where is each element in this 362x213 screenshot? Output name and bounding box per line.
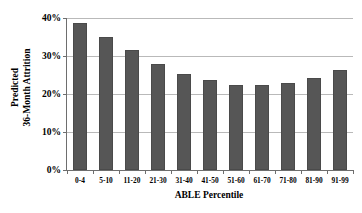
bar-51-60 [229, 85, 243, 171]
bar-41-50 [203, 80, 217, 170]
bar-11-20 [125, 50, 139, 170]
x-axis-tick [301, 170, 302, 174]
y-axis-title-line-2: 36-Month Attrition [22, 49, 34, 127]
y-axis-tick-label: 0% [47, 165, 61, 175]
bar-5-10 [99, 37, 113, 170]
x-axis-tick [93, 170, 94, 174]
bar-91-99 [333, 70, 347, 170]
x-axis-tick-label-0-4: 0-4 [75, 176, 85, 185]
x-axis-tick-label-91-99: 91-99 [331, 176, 348, 185]
x-axis-tick-label-61-70: 61-70 [253, 176, 270, 185]
x-axis-tick [197, 170, 198, 174]
y-axis-tick-label: 40% [42, 13, 61, 23]
x-axis-tick [223, 170, 224, 174]
bar-0-4 [73, 23, 87, 170]
x-axis-tick [249, 170, 250, 174]
y-axis-tick-label: 10% [42, 127, 61, 137]
x-axis-tick-label-41-50: 41-50 [201, 176, 218, 185]
x-axis-tick-label-11-20: 11-20 [124, 176, 141, 185]
x-axis-tick-label-81-90: 81-90 [305, 176, 322, 185]
x-axis-tick [119, 170, 120, 174]
x-axis-tick-label-51-60: 51-60 [227, 176, 244, 185]
bar-chart-figure: Predicted 36-Month Attrition 0%10%20%30%… [0, 0, 362, 213]
x-axis-tick-label-21-30: 21-30 [149, 176, 166, 185]
y-axis-tick-label: 30% [42, 51, 61, 61]
plot-area: 0%10%20%30%40% 0-45-1011-2021-3031-4041-… [66, 18, 353, 171]
y-axis-tick-label: 20% [42, 89, 61, 99]
x-axis-tick [275, 170, 276, 174]
y-axis-title: Predicted 36-Month Attrition [4, 0, 40, 175]
x-axis-tick [353, 170, 354, 174]
bar-71-80 [281, 83, 295, 170]
x-axis-tick [67, 170, 68, 174]
bar-81-90 [307, 78, 321, 170]
x-axis-tick [327, 170, 328, 174]
x-axis-title: ABLE Percentile [66, 190, 352, 201]
x-axis-tick-label-71-80: 71-80 [279, 176, 296, 185]
x-axis-tick-label-31-40: 31-40 [175, 176, 192, 185]
bar-31-40 [177, 74, 191, 170]
bars-group [67, 18, 353, 170]
bar-61-70 [255, 85, 269, 170]
y-axis-title-line-1: Predicted [11, 49, 23, 127]
bar-21-30 [151, 64, 165, 170]
x-axis-tick-label-5-10: 5-10 [99, 176, 113, 185]
x-axis-tick [171, 170, 172, 174]
x-axis-tick [145, 170, 146, 174]
